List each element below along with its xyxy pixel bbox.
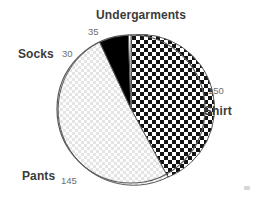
pie-chart-figure: Undergarments 35 Socks 30 Shirt 150 Pant…	[0, 0, 262, 204]
slice-value-undergarments: 35	[88, 26, 99, 37]
scan-artifact-speck	[244, 186, 250, 190]
slice-value-shirt: 150	[208, 85, 224, 96]
slice-value-pants: 145	[61, 175, 77, 186]
slice-label-pants: Pants	[22, 169, 55, 183]
slice-label-socks: Socks	[18, 47, 54, 61]
slice-label-undergarments: Undergarments	[96, 8, 186, 22]
slice-label-shirt: Shirt	[204, 104, 232, 118]
slice-value-socks: 30	[62, 48, 73, 59]
